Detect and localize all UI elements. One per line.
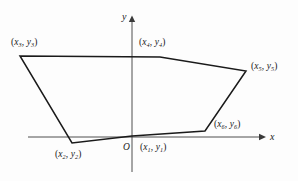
x-symbol-6: x bbox=[217, 119, 221, 129]
comma-1: , bbox=[151, 142, 153, 152]
x-subscript-5: 5 bbox=[259, 65, 262, 72]
close-paren-4: ) bbox=[162, 37, 165, 47]
vertex-label-5: (x5, y5) bbox=[251, 62, 278, 72]
x-symbol-5: x bbox=[254, 61, 258, 71]
x-symbol-2: x bbox=[58, 149, 62, 159]
y-subscript-1: 1 bbox=[160, 146, 163, 153]
y-subscript-4: 4 bbox=[159, 41, 162, 48]
vertex-label-4: (x4, y4) bbox=[139, 38, 166, 48]
origin-label: O bbox=[123, 143, 130, 153]
comma-4: , bbox=[150, 37, 152, 47]
comma-6: , bbox=[225, 119, 227, 129]
close-paren-5: ) bbox=[274, 61, 277, 71]
y-subscript-6: 6 bbox=[234, 123, 237, 130]
y-subscript-2: 2 bbox=[75, 153, 78, 160]
close-paren-6: ) bbox=[237, 119, 240, 129]
comma-2: , bbox=[66, 149, 68, 159]
x-subscript-3: 3 bbox=[19, 41, 22, 48]
vertex-label-1: (x1, y1) bbox=[140, 143, 167, 153]
vertex-label-2: (x2, y2) bbox=[55, 150, 82, 160]
x-symbol-3: x bbox=[14, 37, 18, 47]
x-subscript-4: 4 bbox=[147, 41, 150, 48]
x-subscript-1: 1 bbox=[148, 146, 151, 153]
close-paren-1: ) bbox=[163, 142, 166, 152]
x-symbol-4: x bbox=[142, 37, 146, 47]
vertex-label-3: (x3, y3) bbox=[11, 38, 38, 48]
x-subscript-6: 6 bbox=[222, 123, 225, 130]
close-paren-2: ) bbox=[78, 149, 81, 159]
y-subscript-3: 3 bbox=[31, 41, 34, 48]
hexagon-polygon bbox=[20, 56, 246, 143]
y-axis-label: y bbox=[122, 12, 126, 22]
figure-canvas bbox=[0, 0, 298, 181]
y-subscript-5: 5 bbox=[271, 65, 274, 72]
coordinate-plane-polygon-figure: y x O (x1, y1) (x2, y2) (x3, y3) (x4, y4… bbox=[0, 0, 298, 181]
x-subscript-2: 2 bbox=[63, 153, 66, 160]
x-axis-label: x bbox=[270, 132, 274, 142]
close-paren-3: ) bbox=[34, 37, 37, 47]
comma-5: , bbox=[262, 61, 264, 71]
vertex-label-6: (x6, y6) bbox=[214, 120, 241, 130]
x-symbol-1: x bbox=[143, 142, 147, 152]
comma-3: , bbox=[22, 37, 24, 47]
